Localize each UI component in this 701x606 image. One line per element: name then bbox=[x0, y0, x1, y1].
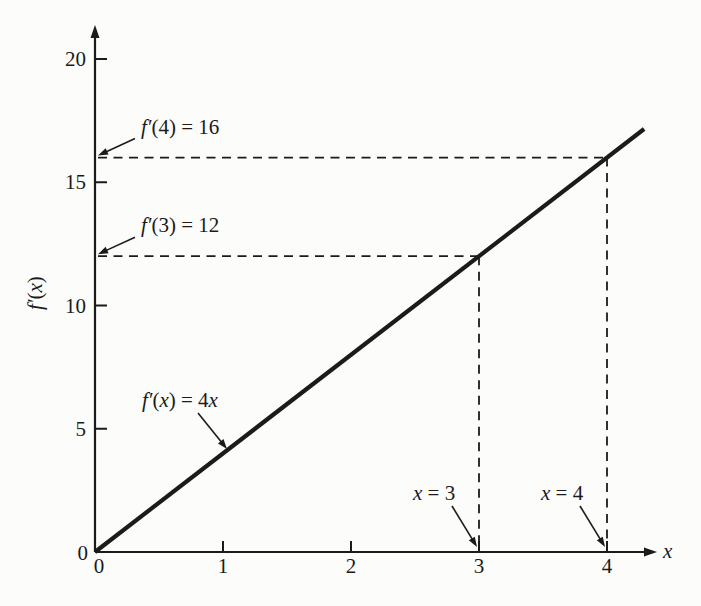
y-value-arrow-16-head bbox=[98, 148, 109, 155]
x-tick-label-0: 0 bbox=[94, 554, 105, 578]
y-value-arrow-16-shaft bbox=[105, 139, 135, 153]
y-tick-label-0: 0 bbox=[78, 541, 89, 565]
x-value-annotation-4: x = 4 bbox=[540, 481, 584, 505]
x-tick-label-1: 1 bbox=[218, 554, 229, 578]
y-value-annotation-16: f′(4) = 16 bbox=[141, 115, 219, 139]
y-axis-head bbox=[91, 25, 100, 38]
x-value-arrow-4-head bbox=[597, 537, 605, 547]
x-tick-label-3: 3 bbox=[474, 554, 485, 578]
y-tick-label-15: 15 bbox=[65, 170, 86, 194]
y-tick-label-5: 5 bbox=[76, 417, 87, 441]
x-value-arrow-3-shaft bbox=[452, 506, 473, 540]
y-axis-label: f′(x) bbox=[23, 276, 47, 310]
x-value-annotation-3: x = 3 bbox=[412, 481, 455, 505]
y-tick-label-20: 20 bbox=[65, 47, 86, 71]
x-tick-label-4: 4 bbox=[602, 554, 613, 578]
y-value-arrow-12-head bbox=[98, 247, 109, 254]
x-axis-head bbox=[644, 548, 657, 557]
x-value-arrow-4-shaft bbox=[580, 506, 601, 540]
x-value-arrow-3-head bbox=[469, 537, 477, 547]
figure-page: 0510152001234xf′(x)f′(x) = 4xf′(3) = 12x… bbox=[0, 0, 701, 606]
x-axis-label: x bbox=[662, 539, 673, 563]
y-value-arrow-12-shaft bbox=[105, 237, 135, 251]
y-tick-label-10: 10 bbox=[65, 294, 86, 318]
y-value-annotation-12: f′(3) = 12 bbox=[141, 213, 219, 237]
equation-annotation: f′(x) = 4x bbox=[142, 388, 219, 412]
equation-arrow-shaft bbox=[198, 413, 222, 443]
derivative-chart: 0510152001234xf′(x)f′(x) = 4xf′(3) = 12x… bbox=[0, 0, 701, 606]
x-tick-label-2: 2 bbox=[346, 554, 357, 578]
